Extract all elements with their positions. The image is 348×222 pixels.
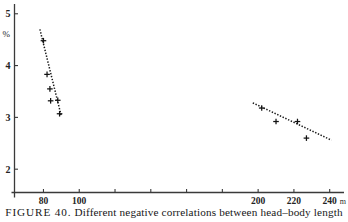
data-point <box>304 135 310 141</box>
x-tick-label: 80 <box>39 196 49 206</box>
trend-line-right-cluster <box>253 103 332 140</box>
data-point <box>55 97 61 103</box>
data-point <box>273 119 279 125</box>
y-tick-label: 3 <box>6 112 11 123</box>
x-axis-unit-label: m <box>340 197 347 206</box>
y-tick-label: 4 <box>6 60 11 71</box>
y-tick-label: 5 <box>6 8 11 19</box>
data-point <box>57 111 63 117</box>
x-tick-label: 200 <box>251 196 266 206</box>
x-axis-tick-labels: 80100200220240 <box>39 196 337 206</box>
data-point <box>47 86 53 92</box>
trend-lines-group <box>40 29 332 140</box>
figure-container: 2345 80100200220240 % m FIGURE 40. Diffe… <box>0 0 348 222</box>
scatter-plot: 2345 80100200220240 % m <box>0 0 348 208</box>
figure-caption: FIGURE 40. Different negative correlatio… <box>0 206 348 222</box>
y-tick-label: 2 <box>6 164 11 175</box>
data-point <box>295 119 301 125</box>
data-point <box>48 98 54 104</box>
axes-group <box>12 4 345 198</box>
figure-caption-text: Different negative correlations between … <box>74 206 342 218</box>
data-markers-group <box>41 38 310 141</box>
data-point <box>44 72 50 78</box>
x-tick-label: 240 <box>323 196 338 206</box>
x-tick-label: 220 <box>287 196 302 206</box>
x-tick-label: 100 <box>72 196 87 206</box>
figure-number: FIGURE 40. <box>5 206 71 218</box>
y-axis-unit-label: % <box>3 29 11 39</box>
data-point <box>259 105 265 111</box>
